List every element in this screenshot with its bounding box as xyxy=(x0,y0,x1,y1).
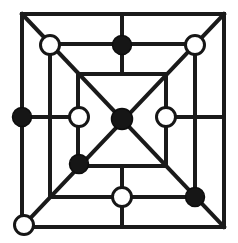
piece-black-outer-left-middle[interactable] xyxy=(13,108,32,127)
piece-white-middle-top-left[interactable] xyxy=(41,36,60,55)
piece-white-inner-right-middle[interactable] xyxy=(157,108,176,127)
piece-black-inner-bottom-left[interactable] xyxy=(70,155,89,174)
piece-white-inner-left-middle[interactable] xyxy=(70,108,89,127)
board-canvas xyxy=(0,0,238,243)
piece-black-middle-bottom-right[interactable] xyxy=(186,188,205,207)
piece-black-middle-top-middle[interactable] xyxy=(113,36,132,55)
piece-white-middle-top-right[interactable] xyxy=(186,36,205,55)
piece-white-middle-bottom-middle[interactable] xyxy=(113,188,132,207)
piece-black-center[interactable] xyxy=(112,109,133,130)
game-board[interactable] xyxy=(0,0,238,243)
piece-white-outer-bottom-left[interactable] xyxy=(15,216,34,235)
